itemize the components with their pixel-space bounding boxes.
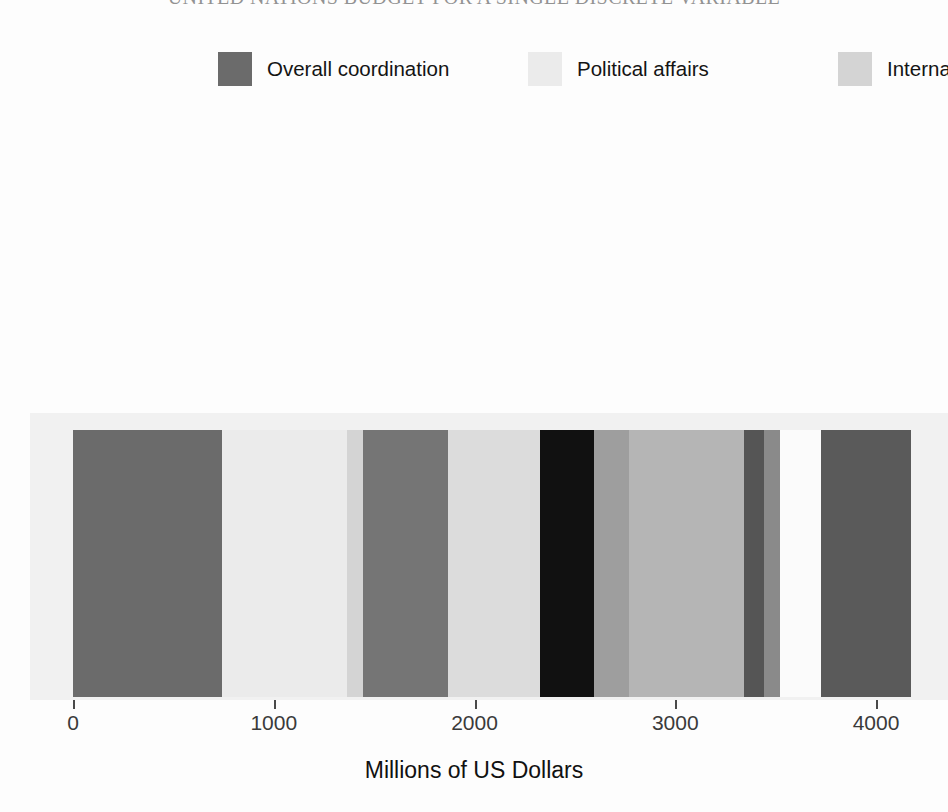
legend-swatch-icon [838,52,872,86]
bar-segment[interactable] [821,430,911,697]
bar-segment[interactable] [629,430,744,697]
legend-item[interactable]: Political affairs [528,46,838,92]
legend-item-label: Political affairs [577,59,709,80]
axis-tick-label: 0 [67,711,79,735]
legend-swatch-icon [528,52,562,86]
axis-tick [475,700,477,709]
chart-legend: Overall coordinationPolitical affairsInt… [218,46,838,92]
axis-tick-label: 3000 [652,711,699,735]
bar-segment[interactable] [540,430,594,697]
axis-tick-label: 2000 [451,711,498,735]
bar-segment[interactable] [73,430,222,697]
bar-segment[interactable] [744,430,764,697]
bar-segment[interactable] [764,430,780,697]
legend-item[interactable]: International law [838,46,948,92]
bar-segment[interactable] [594,430,629,697]
bar-segment[interactable] [347,430,363,697]
axis-tick-label: 1000 [250,711,297,735]
x-axis-label: Millions of US Dollars [0,757,948,784]
bar-segment[interactable] [780,430,821,697]
axis-tick [876,700,878,709]
plot-area [30,413,948,700]
axis-tick [274,700,276,709]
legend-item-label: Overall coordination [267,59,449,80]
legend-item[interactable]: Overall coordination [218,46,528,92]
bar-segment[interactable] [222,430,347,697]
bar-segment[interactable] [448,430,541,697]
legend-swatch-icon [218,52,252,86]
legend-item-label: International law [887,59,948,80]
axis-tick [73,700,75,709]
bar-segment[interactable] [363,430,448,697]
x-axis: 01000200030004000 [30,700,948,710]
axis-tick-label: 4000 [853,711,900,735]
axis-tick [675,700,677,709]
stacked-bar [30,430,948,697]
page-title: UNITED NATIONS BUDGET FOR A SINGLE DISCR… [0,0,948,9]
